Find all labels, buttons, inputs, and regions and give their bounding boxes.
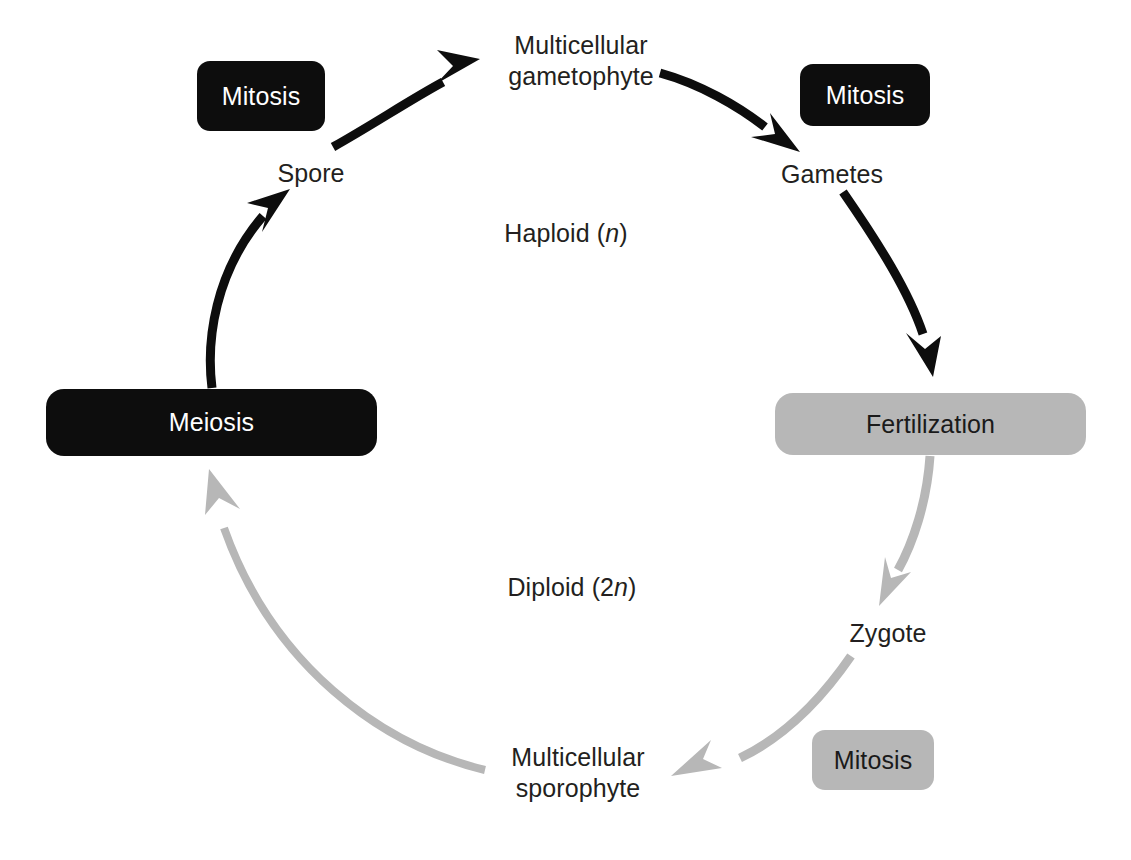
node-label-gametes: Gametes xyxy=(752,159,912,190)
phase-label-haploid: Haploid (n) xyxy=(446,219,686,248)
arrow-gametes-to-fertilization xyxy=(843,192,941,377)
arrow-meiosis-to-spore xyxy=(210,189,290,388)
phase-label-diploid-variable: n xyxy=(614,573,628,601)
process-box-mitosis-gametes[interactable]: Mitosis xyxy=(800,64,930,126)
phase-label-haploid-suffix: ) xyxy=(619,219,627,247)
process-box-label: Mitosis xyxy=(834,746,912,775)
node-label-spore: Spore xyxy=(241,158,381,189)
process-box-label: Mitosis xyxy=(826,81,904,110)
process-box-meiosis[interactable]: Meiosis xyxy=(46,389,377,456)
node-label-multicellular-gametophyte: Multicellular gametophyte xyxy=(461,30,701,91)
process-box-label: Meiosis xyxy=(169,408,254,437)
arrow-spore-to-gametophyte xyxy=(333,50,480,147)
process-box-mitosis-sporophyte[interactable]: Mitosis xyxy=(812,730,934,790)
process-box-label: Fertilization xyxy=(866,410,995,439)
life-cycle-diagram: Mitosis Mitosis Meiosis Fertilization Mi… xyxy=(0,0,1131,860)
process-box-label: Mitosis xyxy=(222,82,300,111)
phase-label-haploid-prefix: Haploid ( xyxy=(504,219,605,247)
arrow-fertilization-to-zygote xyxy=(879,456,930,606)
node-label-zygote: Zygote xyxy=(818,618,958,649)
process-box-mitosis-spore[interactable]: Mitosis xyxy=(197,61,325,131)
node-label-multicellular-sporophyte: Multicellular sporophyte xyxy=(458,742,698,803)
phase-label-diploid-prefix: Diploid (2 xyxy=(507,573,614,601)
process-box-fertilization[interactable]: Fertilization xyxy=(775,393,1086,455)
phase-label-diploid: Diploid (2n) xyxy=(452,573,692,602)
phase-label-haploid-variable: n xyxy=(605,219,619,247)
arrow-sporophyte-to-meiosis xyxy=(205,469,485,770)
phase-label-diploid-suffix: ) xyxy=(628,573,636,601)
